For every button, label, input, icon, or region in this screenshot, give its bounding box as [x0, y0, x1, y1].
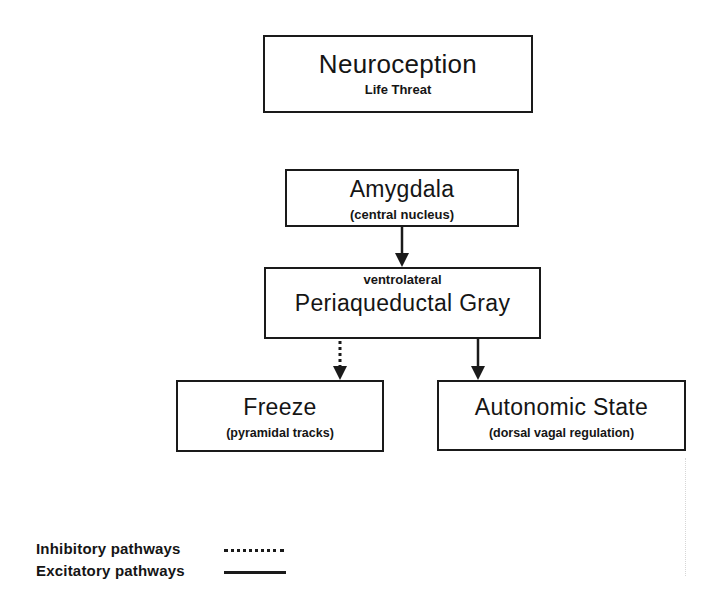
arrowhead-icon [395, 253, 409, 267]
arrowhead-icon [333, 366, 347, 380]
node-autonomic-state: Autonomic State (dorsal vagal regulation… [437, 380, 686, 451]
edge-amygdala-to-pag [395, 227, 409, 267]
legend-excitatory-label: Excitatory pathways [36, 562, 185, 579]
node-title: Freeze [178, 394, 382, 421]
legend-solid-line-icon [224, 571, 286, 574]
node-title: Autonomic State [439, 394, 684, 421]
edge-pag-to-freeze [333, 341, 347, 380]
node-title: Neuroception [265, 49, 531, 80]
scan-artifact-divider [685, 458, 686, 576]
node-subtitle: (pyramidal tracks) [178, 426, 382, 440]
node-subtitle: (central nucleus) [287, 207, 517, 222]
node-amygdala: Amygdala (central nucleus) [285, 169, 519, 227]
node-subtitle: ventrolateral [266, 272, 539, 287]
node-title: Amygdala [287, 176, 517, 203]
node-neuroception: Neuroception Life Threat [263, 35, 533, 113]
node-periaqueductal-gray: ventrolateral Periaqueductal Gray [264, 267, 541, 339]
node-subtitle: (dorsal vagal regulation) [439, 426, 684, 440]
node-subtitle: Life Threat [265, 82, 531, 97]
legend-inhibitory-label: Inhibitory pathways [36, 540, 181, 557]
arrowhead-icon [471, 366, 485, 380]
edge-pag-to-autonomic [471, 339, 485, 380]
node-title: Periaqueductal Gray [266, 290, 539, 317]
node-freeze: Freeze (pyramidal tracks) [176, 380, 384, 452]
legend-dotted-line-icon [224, 549, 284, 552]
